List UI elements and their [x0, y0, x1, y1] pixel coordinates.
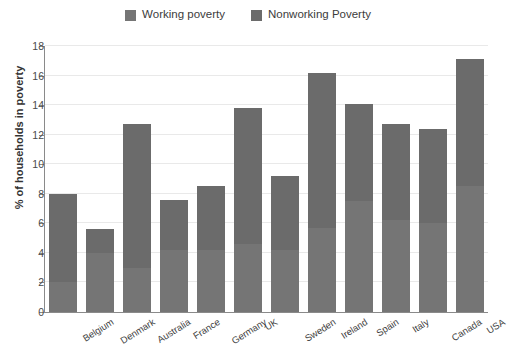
y-tick-label: 18	[10, 41, 44, 52]
gridline	[45, 75, 488, 76]
x-axis-labels: BelgiumDenmarkAustraliaFranceGermanyUKSw…	[45, 313, 488, 361]
x-tick-label: Italy	[411, 317, 431, 334]
bar-segment-nonworking-poverty[interactable]	[123, 124, 151, 267]
bar-group[interactable]	[456, 59, 484, 312]
bar-segment-working-poverty[interactable]	[123, 268, 151, 312]
bar-segment-working-poverty[interactable]	[160, 250, 188, 312]
x-tick-label: Spain	[375, 317, 401, 338]
bar-segment-working-poverty[interactable]	[308, 228, 336, 312]
bar-segment-nonworking-poverty[interactable]	[345, 104, 373, 202]
bar-segment-nonworking-poverty[interactable]	[308, 73, 336, 228]
x-tick-label: Germany	[230, 317, 268, 346]
legend-item-working-poverty[interactable]: Working poverty	[125, 9, 225, 21]
y-tick-label: 6	[10, 218, 44, 229]
bar-segment-working-poverty[interactable]	[419, 223, 447, 312]
x-tick-label: Denmark	[119, 317, 157, 345]
bar-segment-nonworking-poverty[interactable]	[49, 194, 77, 283]
legend-label: Nonworking Poverty	[268, 9, 371, 21]
x-tick-label: France	[191, 317, 221, 341]
bar-segment-nonworking-poverty[interactable]	[86, 229, 114, 253]
bar-segment-nonworking-poverty[interactable]	[456, 59, 484, 186]
bar-group[interactable]	[160, 200, 188, 312]
x-tick-label: USA	[485, 317, 507, 335]
bar-segment-working-poverty[interactable]	[271, 250, 299, 312]
bar-group[interactable]	[345, 104, 373, 312]
y-tick-label: 16	[10, 71, 44, 82]
bar-group[interactable]	[419, 129, 447, 312]
y-tick-label: 8	[10, 189, 44, 200]
bar-segment-nonworking-poverty[interactable]	[419, 129, 447, 224]
bar-segment-nonworking-poverty[interactable]	[160, 200, 188, 250]
legend-swatch-icon	[251, 10, 262, 21]
bar-segment-nonworking-poverty[interactable]	[382, 124, 410, 220]
bar-group[interactable]	[86, 229, 114, 312]
y-tick-label: 0	[10, 307, 44, 318]
bar-segment-nonworking-poverty[interactable]	[197, 186, 225, 250]
gridline	[45, 45, 488, 46]
bar-segment-working-poverty[interactable]	[49, 282, 77, 312]
bar-group[interactable]	[308, 73, 336, 312]
x-tick-label: Ireland	[339, 317, 369, 340]
bar-group[interactable]	[123, 124, 151, 312]
bar-group[interactable]	[197, 186, 225, 312]
x-tick-label: Canada	[450, 317, 483, 343]
bar-group[interactable]	[49, 194, 77, 312]
bar-segment-working-poverty[interactable]	[197, 250, 225, 312]
bar-segment-nonworking-poverty[interactable]	[271, 176, 299, 250]
x-tick-label: Australia	[156, 317, 192, 345]
legend-label: Working poverty	[142, 9, 225, 21]
bar-group[interactable]	[234, 108, 262, 312]
y-tick-label: 2	[10, 277, 44, 288]
plot-area	[45, 46, 488, 312]
bar-segment-working-poverty[interactable]	[345, 201, 373, 312]
x-tick-label: Belgium	[81, 317, 115, 343]
legend-item-nonworking-poverty[interactable]: Nonworking Poverty	[251, 9, 371, 21]
x-tick-label: Sweden	[303, 317, 337, 343]
bar-segment-nonworking-poverty[interactable]	[234, 108, 262, 244]
y-tick-label: 14	[10, 100, 44, 111]
gridline	[45, 104, 488, 105]
bar-segment-working-poverty[interactable]	[234, 244, 262, 312]
bar-segment-working-poverty[interactable]	[86, 253, 114, 312]
y-tick-label: 12	[10, 130, 44, 141]
y-tick-label: 4	[10, 248, 44, 259]
bar-group[interactable]	[271, 176, 299, 312]
y-tick-label: 10	[10, 159, 44, 170]
bar-group[interactable]	[382, 124, 410, 312]
bar-segment-working-poverty[interactable]	[456, 186, 484, 312]
legend-swatch-icon	[125, 10, 136, 21]
bar-segment-working-poverty[interactable]	[382, 220, 410, 312]
y-axis-ticks: 024681012141618	[0, 0, 44, 361]
chart-legend: Working poverty Nonworking Poverty	[0, 6, 496, 24]
